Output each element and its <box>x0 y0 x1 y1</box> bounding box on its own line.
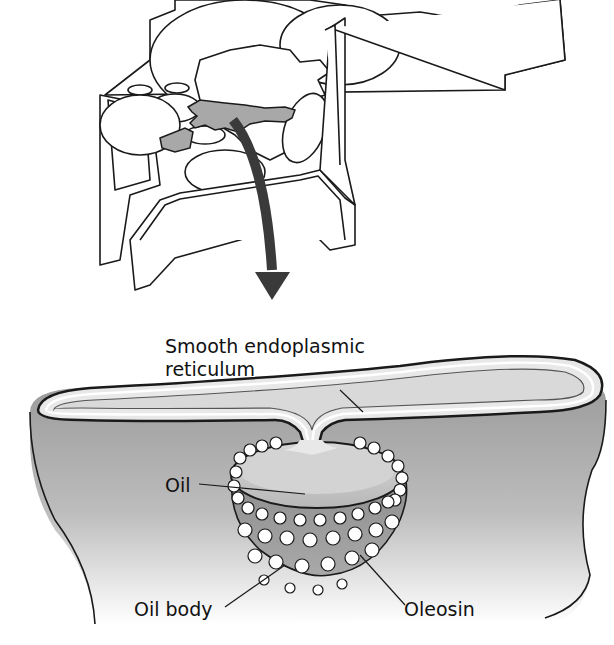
label-smooth-er-line1: Smooth endoplasmic <box>165 335 365 357</box>
label-oleosin: Oleosin <box>404 598 475 620</box>
label-oil: Oil <box>165 474 191 496</box>
label-smooth-er-line2: reticulum <box>165 358 255 380</box>
diagram-canvas: Smooth endoplasmic reticulum Oil Oil bod… <box>0 0 614 645</box>
diagram-svg <box>0 0 614 645</box>
label-oil-body: Oil body <box>134 598 213 620</box>
er-detail <box>30 356 606 624</box>
